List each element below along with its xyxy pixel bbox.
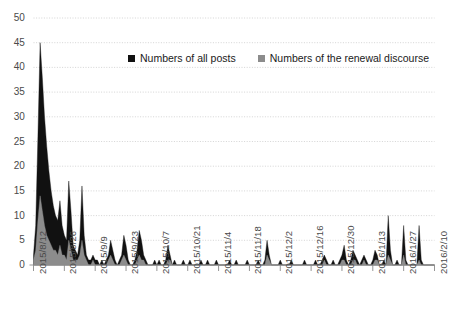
y-tick-label: 30 bbox=[3, 112, 25, 122]
legend-label: Numbers of the renewal discourse bbox=[270, 52, 429, 64]
x-tick-label: 2015/8/12 bbox=[38, 231, 48, 274]
x-tick-label: 2015/12/2 bbox=[284, 231, 294, 274]
series-areas bbox=[34, 43, 435, 265]
x-tick-marks bbox=[34, 265, 435, 271]
chart-legend: Numbers of all postsNumbers of the renew… bbox=[128, 52, 429, 64]
y-tick-label: 45 bbox=[3, 38, 25, 48]
legend-label: Numbers of all posts bbox=[140, 52, 236, 64]
x-tick-label: 2015/8/26 bbox=[68, 231, 78, 274]
x-tick-label: 2015/10/7 bbox=[161, 231, 171, 274]
legend-item: Numbers of all posts bbox=[128, 52, 236, 64]
x-tick-label: 2015/9/23 bbox=[130, 231, 140, 274]
series-area-all-posts bbox=[34, 43, 435, 265]
y-tick-label: 20 bbox=[3, 161, 25, 171]
x-tick-label: 2016/2/10 bbox=[439, 231, 449, 274]
x-tick-label: 2015/12/16 bbox=[315, 225, 325, 274]
x-tick-label: 2015/11/4 bbox=[223, 232, 233, 274]
legend-swatch-icon bbox=[258, 55, 265, 62]
x-tick-label: 2016/1/27 bbox=[408, 231, 418, 274]
y-tick-label: 40 bbox=[3, 62, 25, 72]
y-tick-label: 0 bbox=[3, 260, 25, 270]
y-tick-label: 15 bbox=[3, 186, 25, 196]
y-tick-label: 10 bbox=[3, 211, 25, 221]
x-tick-label: 2015/10/21 bbox=[192, 225, 202, 274]
x-tick-label: 2016/1/13 bbox=[377, 231, 387, 274]
legend-item: Numbers of the renewal discourse bbox=[258, 52, 429, 64]
x-tick-label: 2015/11/18 bbox=[253, 226, 263, 274]
y-tick-label: 35 bbox=[3, 87, 25, 97]
y-tick-label: 25 bbox=[3, 137, 25, 147]
y-tick-label: 50 bbox=[3, 13, 25, 23]
y-tick-label: 5 bbox=[3, 235, 25, 245]
x-tick-label: 2015/9/9 bbox=[99, 236, 109, 274]
x-tick-label: 2015/12/30 bbox=[346, 225, 356, 274]
legend-swatch-icon bbox=[128, 55, 135, 62]
